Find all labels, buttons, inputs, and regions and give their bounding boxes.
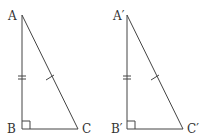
label-a: A [7,9,17,23]
side-a-prime-c-prime-hypotenuse [127,15,183,129]
right-angle-mark-b-prime [127,121,135,129]
label-a-prime: A′ [112,9,125,23]
triangle-abc: A B C [7,9,91,136]
triangle-a-prime-b-prime-c-prime: A′ B′ C′ [111,9,199,136]
side-ac-hypotenuse [22,15,78,129]
diagram-canvas: A B C A′ B′ C′ [0,0,207,139]
label-b: B [7,122,16,136]
right-angle-mark-b [22,121,30,129]
label-b-prime: B′ [111,122,123,136]
label-c-prime: C′ [187,122,199,136]
label-c: C [82,122,91,136]
